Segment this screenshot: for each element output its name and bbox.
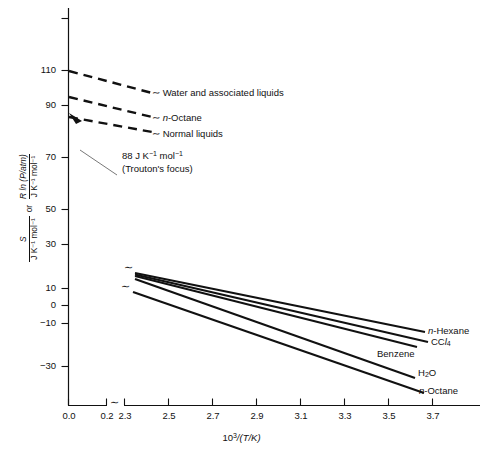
troutons-focus-value: 88 J K (122, 150, 149, 161)
tilde-icon-octane: ∼ (152, 112, 160, 123)
dashed-label-normal-text: Normal liquids (163, 128, 223, 139)
dashed-label-water-associated: ∼ Water and associated liquids (152, 87, 284, 98)
curve-label-ccl4: CCl4 (431, 336, 451, 349)
curve-label-n-hexane-text: -Hexane (433, 325, 469, 336)
x-axis-ticks (69, 399, 433, 406)
y-axis-ticks (62, 19, 69, 367)
dashed-line-water-associated (69, 71, 152, 93)
y-axis-label-fraction-1: S J K⁻¹ mol⁻¹ (19, 216, 39, 262)
troutons-focus-line2: (Trouton's focus) (122, 163, 193, 176)
dashed-line-n-octane (69, 97, 152, 117)
curve-label-ccl4-sub: 4 (447, 340, 451, 347)
x-axis-break-tilde-icon: ∼ (110, 396, 119, 409)
y-tick-label-0: 0 (18, 299, 56, 310)
curve-label-h2o-suffix: O (429, 367, 436, 378)
x-tick-label-3.3: 3.3 (330, 410, 360, 421)
y-axis-label-num-2: R ln (P/atm) (19, 152, 29, 201)
curve-benzene (135, 276, 417, 347)
figure-container: 110 90 70 50 30 10 0 −10 −30 0.0 0.2 2.3… (0, 0, 483, 453)
curve-label-n-octane-text: -Octane (424, 385, 458, 396)
tilde-icon-water: ∼ (152, 87, 160, 98)
x-tick-label-2.9: 2.9 (242, 410, 272, 421)
curve-label-benzene: Benzene (377, 348, 415, 359)
curve-label-h2o: H2O (418, 367, 436, 380)
chart-plot-area (0, 0, 483, 453)
curve-break-tilde-lower-icon: ∼ (121, 280, 130, 293)
y-tick-label-neg10: −10 (14, 317, 56, 328)
y-axis-label-den-2: J K⁻¹ mol⁻¹ (29, 154, 40, 200)
y-axis-label: S J K⁻¹ mol⁻¹ or R ln (P/atm) J K⁻¹ mol⁻… (18, 122, 40, 292)
y-tick-label-neg30: −30 (14, 360, 56, 371)
curve-label-n-octane: n-Octane (419, 385, 458, 396)
curve-break-tilde-upper-icon: ∼ (124, 261, 133, 274)
troutons-focus-line1: 88 J K−1 mol−1 (122, 149, 193, 163)
y-axis-label-fraction-2: R ln (P/atm) J K⁻¹ mol⁻¹ (19, 152, 39, 201)
dashed-series-group (69, 71, 152, 132)
x-tick-label-0.0: 0.0 (54, 410, 84, 421)
solid-series-group (133, 273, 428, 393)
troutons-focus-pointer (69, 113, 117, 175)
x-tick-label-2.7: 2.7 (198, 410, 228, 421)
dashed-line-normal-liquids (69, 117, 152, 132)
dashed-label-water-text: Water and associated liquids (163, 87, 284, 98)
troutons-focus-exp1: −1 (149, 150, 157, 157)
x-tick-label-3.7: 3.7 (418, 410, 448, 421)
curve-label-n-hexane: n-Hexane (428, 325, 469, 336)
curve-label-ccl4-plain: CC (431, 336, 445, 347)
y-axis-label-or: or (24, 205, 34, 212)
y-tick-label-90: 90 (18, 99, 56, 110)
x-tick-label-3.5: 3.5 (374, 410, 404, 421)
troutons-focus-annotation: 88 J K−1 mol−1 (Trouton's focus) (122, 149, 193, 176)
curve-label-h2o-plain: H (418, 367, 425, 378)
x-axis-label: 103/(T/K) (0, 432, 483, 443)
x-axis-label-suffix: /(T/K) (237, 432, 261, 443)
dashed-label-octane-text: -Octane (168, 112, 202, 123)
curve-n-hexane (135, 273, 425, 332)
dashed-label-n-octane: ∼ n-Octane (152, 112, 202, 123)
dashed-label-normal-liquids: ∼ Normal liquids (152, 128, 223, 139)
x-axis-label-prefix: 10 (222, 432, 233, 443)
y-axis-label-num-1: S (19, 234, 29, 244)
troutons-focus-exp2: −1 (175, 150, 183, 157)
troutons-focus-mol: mol (157, 150, 175, 161)
y-axis-label-den-1: J K⁻¹ mol⁻¹ (29, 216, 40, 262)
x-tick-label-3.1: 3.1 (286, 410, 316, 421)
y-tick-label-110: 110 (18, 64, 56, 75)
tilde-icon-normal: ∼ (152, 128, 160, 139)
x-tick-label-2.5: 2.5 (154, 410, 184, 421)
x-tick-label-2.3: 2.3 (110, 410, 140, 421)
